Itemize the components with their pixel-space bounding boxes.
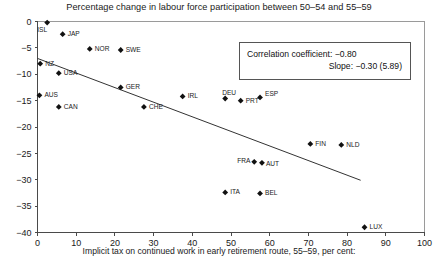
point-marker bbox=[141, 104, 147, 110]
correlation-coefficient-label: Correlation coefficient: −0.80 bbox=[247, 48, 402, 60]
data-point-aus: AUS bbox=[37, 91, 59, 98]
data-point-ger: GER bbox=[118, 83, 140, 90]
y-tick-label: −10 bbox=[16, 69, 31, 79]
point-marker bbox=[257, 191, 263, 197]
y-tick-label: −20 bbox=[16, 122, 31, 132]
y-tick-label: −30 bbox=[16, 175, 31, 185]
data-point-can: CAN bbox=[56, 103, 78, 110]
data-point-esp: ESP bbox=[257, 90, 279, 100]
point-label: LUX bbox=[370, 223, 383, 230]
scatter-chart-figure: Percentage change in labour force partic… bbox=[0, 0, 438, 264]
point-label: NZ bbox=[45, 60, 54, 67]
point-label: ESP bbox=[265, 90, 279, 97]
y-tick-label: −15 bbox=[16, 96, 31, 106]
point-label: FRA bbox=[237, 157, 251, 164]
point-marker bbox=[222, 190, 228, 196]
data-point-aut: AUT bbox=[259, 160, 279, 167]
point-label: GER bbox=[126, 83, 141, 90]
point-marker bbox=[87, 46, 93, 52]
point-marker bbox=[222, 96, 228, 102]
data-point-deu: DEU bbox=[222, 89, 236, 102]
data-point-nor: NOR bbox=[87, 45, 110, 52]
data-point-lux: LUX bbox=[362, 223, 383, 230]
plot-area: 0−5−10−15−20−25−30−35−40 010203040506070… bbox=[0, 0, 438, 264]
point-marker bbox=[56, 104, 62, 110]
point-label: PRT bbox=[246, 97, 259, 104]
data-point-irl: IRL bbox=[180, 92, 198, 99]
data-point-ita: ITA bbox=[222, 188, 240, 195]
point-label: ISL bbox=[37, 26, 47, 33]
point-marker bbox=[56, 70, 62, 76]
point-marker bbox=[37, 61, 43, 67]
point-marker bbox=[60, 31, 66, 37]
y-axis-ticks: 0−5−10−15−20−25−30−35−40 bbox=[16, 17, 37, 238]
point-label: AUT bbox=[266, 160, 279, 167]
point-marker bbox=[238, 98, 244, 104]
point-label: AUS bbox=[44, 91, 58, 98]
data-point-usa: USA bbox=[56, 69, 78, 76]
data-point-bel: BEL bbox=[257, 189, 278, 196]
point-label: USA bbox=[64, 69, 78, 76]
data-point-fin: FIN bbox=[307, 140, 326, 147]
data-point-che: CHE bbox=[141, 103, 163, 110]
data-point-swe: SWE bbox=[118, 46, 142, 53]
point-marker bbox=[307, 141, 313, 147]
y-tick-label: −25 bbox=[16, 149, 31, 159]
data-point-nz: NZ bbox=[37, 60, 54, 67]
y-tick-label: −5 bbox=[21, 43, 31, 53]
point-label: NOR bbox=[95, 45, 110, 52]
point-label: DEU bbox=[222, 89, 236, 96]
statistics-box: Correlation coefficient: −0.80 Slope: −0… bbox=[239, 42, 411, 80]
data-point-prt: PRT bbox=[238, 97, 259, 104]
point-label: ITA bbox=[230, 188, 240, 195]
point-label: CAN bbox=[64, 103, 78, 110]
point-label: BEL bbox=[265, 189, 278, 196]
point-label: CHE bbox=[149, 103, 164, 110]
point-marker bbox=[118, 47, 124, 53]
point-marker bbox=[251, 159, 257, 165]
point-label: NLD bbox=[346, 141, 359, 148]
y-tick-label: −40 bbox=[16, 228, 31, 238]
point-label: JAP bbox=[68, 30, 81, 37]
x-axis-label: Implicit tax on continued work in early … bbox=[0, 246, 438, 256]
point-marker bbox=[180, 94, 186, 100]
y-tick-label: −35 bbox=[16, 201, 31, 211]
data-point-fra: FRA bbox=[237, 157, 257, 165]
point-label: FIN bbox=[315, 140, 326, 147]
point-marker bbox=[259, 160, 265, 166]
point-marker bbox=[362, 224, 368, 230]
data-point-jap: JAP bbox=[60, 30, 81, 37]
y-tick-label: 0 bbox=[26, 17, 31, 27]
data-point-nld: NLD bbox=[338, 141, 359, 148]
slope-label: Slope: −0.30 (5.89) bbox=[247, 60, 402, 72]
point-marker bbox=[338, 142, 344, 148]
point-label: SWE bbox=[126, 46, 142, 53]
point-label: IRL bbox=[188, 92, 199, 99]
